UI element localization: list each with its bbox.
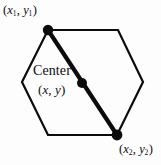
x-subscript: 1 — [13, 9, 17, 18]
vertex-top-left-dot — [43, 25, 53, 35]
diagram-canvas — [0, 0, 161, 165]
y-subscript: 1 — [29, 9, 33, 18]
close-paren: ) — [61, 82, 65, 97]
center-dot — [77, 78, 87, 88]
center-coord-label: (x, y) — [38, 83, 65, 96]
center-label: Center — [33, 64, 71, 78]
hexagon-center-diagram: (x1, y1) (x2, y2) Center (x, y) — [0, 0, 161, 165]
close-paren: ) — [33, 3, 37, 17]
y-subscript: 2 — [145, 148, 149, 157]
vertex-bottom-right-label: (x2, y2) — [119, 143, 153, 156]
x-subscript: 2 — [129, 148, 133, 157]
vertex-bottom-right-dot — [112, 130, 123, 141]
comma: , — [48, 82, 55, 97]
close-paren: ) — [149, 142, 153, 156]
vertex-top-left-label: (x1, y1) — [3, 4, 37, 17]
